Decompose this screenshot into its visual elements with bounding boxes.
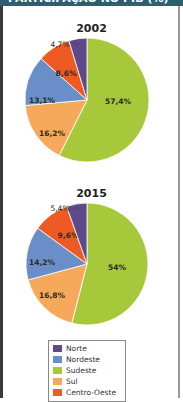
legend-label: Centro-Oeste bbox=[66, 388, 116, 397]
legend-swatch-sul bbox=[53, 378, 62, 385]
legend-label: Sul bbox=[66, 377, 78, 386]
legend-item-norte: Norte bbox=[53, 343, 87, 353]
legend-item-sul: Sul bbox=[53, 376, 78, 386]
slice-label: 14,2% bbox=[29, 258, 56, 267]
legend-item-nordeste: Nordeste bbox=[53, 354, 100, 364]
slice-label-outside: 5,4% bbox=[50, 204, 69, 213]
legend-swatch-nordeste bbox=[53, 356, 62, 363]
legend-item-centro-oeste: Centro-Oeste bbox=[53, 387, 116, 397]
legend-label: Sudeste bbox=[66, 366, 96, 375]
legend-item-sudeste: Sudeste bbox=[53, 365, 96, 375]
slice-label: 16,8% bbox=[39, 291, 66, 300]
legend-swatch-sudeste bbox=[53, 367, 62, 374]
chart-legend: Norte Nordeste Sudeste Sul Centro-Oeste bbox=[48, 340, 126, 402]
legend-label: Norte bbox=[66, 344, 87, 353]
pie-chart-2015: 54%16,8%14,2%9,6%5,4% bbox=[0, 0, 183, 340]
legend-label: Nordeste bbox=[66, 355, 100, 364]
legend-swatch-centro-oeste bbox=[53, 389, 62, 396]
legend-swatch-norte bbox=[53, 345, 62, 352]
slice-label: 54% bbox=[108, 263, 126, 272]
